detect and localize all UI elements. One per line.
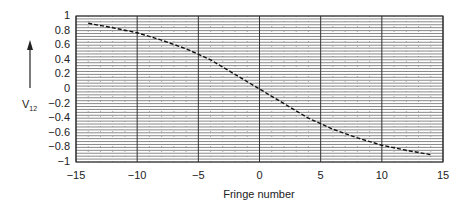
y-axis-label: V12 <box>22 98 37 112</box>
x-tick-label: 0 <box>245 169 275 181</box>
y-tick-label: −0.6 <box>30 126 70 138</box>
y-tick-label: 0.2 <box>30 67 70 79</box>
y-tick-label: 0.6 <box>30 38 70 50</box>
chart: 10.80.60.40.20−0.2−0.4−0.6−0.8−1 −15−10−… <box>0 0 466 211</box>
y-tick-label: 0.8 <box>30 24 70 36</box>
x-tick-label: 5 <box>306 169 336 181</box>
x-tick-label: 10 <box>367 169 397 181</box>
y-tick-label: −1 <box>30 155 70 167</box>
x-axis-label: Fringe number <box>209 188 309 200</box>
x-tick-label: −15 <box>61 169 91 181</box>
y-tick-label: 1 <box>30 9 70 21</box>
y-tick-label: −0.4 <box>30 111 70 123</box>
x-tick-label: −5 <box>183 169 213 181</box>
grid-lines <box>76 16 443 162</box>
y-tick-label: 0.4 <box>30 53 70 65</box>
y-tick-label: −0.8 <box>30 140 70 152</box>
y-tick-label: 0 <box>30 82 70 94</box>
x-tick-label: 15 <box>428 169 458 181</box>
x-tick-label: −10 <box>122 169 152 181</box>
